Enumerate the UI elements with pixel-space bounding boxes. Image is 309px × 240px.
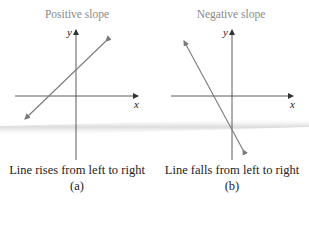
panel-a-x-label: x	[133, 98, 139, 110]
panel-b-graph: y x	[171, 26, 295, 160]
panel-a-graph: y x	[15, 26, 139, 160]
panel-b-line	[184, 41, 243, 150]
panel-a-y-label: y	[66, 26, 72, 38]
panel-a-line	[25, 41, 106, 119]
panel-b-x-label: x	[289, 98, 295, 110]
panel-b-caption: Line falls from left to right	[152, 163, 309, 178]
panel-a-label: (a)	[0, 179, 157, 194]
panel-b-label: (b)	[152, 179, 309, 194]
panel-a-caption: Line rises from left to right	[0, 163, 157, 178]
gray-band	[0, 118, 309, 136]
panel-b-y-label: y	[222, 26, 228, 38]
